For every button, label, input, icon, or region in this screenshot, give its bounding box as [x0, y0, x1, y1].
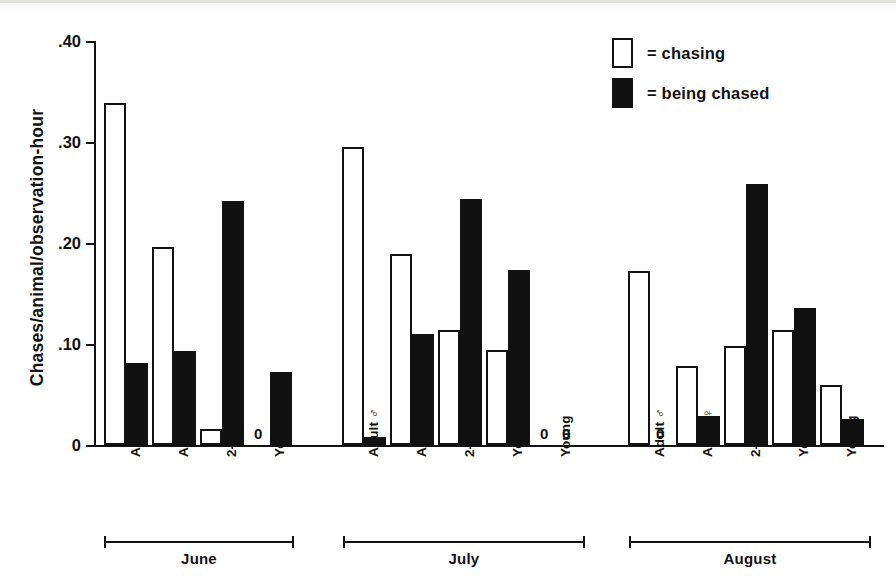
- bracket-cap-right: [583, 536, 585, 548]
- month-bracket: August: [629, 536, 871, 548]
- bar-chasing: [342, 147, 364, 445]
- bracket-line: [629, 541, 871, 543]
- legend-swatch-being-chased: [612, 78, 633, 108]
- bar-chasing: [438, 330, 460, 445]
- bar-chasing: [200, 429, 222, 445]
- x-axis-category-label: Yearling: [796, 404, 811, 457]
- bar-chasing: [104, 103, 126, 445]
- bar-chasing: [820, 385, 842, 445]
- legend-swatch-chasing: [612, 38, 633, 68]
- legend-item-chasing: = chasing: [612, 36, 769, 70]
- bar-chasing: [390, 254, 412, 445]
- bar-chasing: [152, 247, 174, 445]
- month-bracket: June: [104, 536, 294, 548]
- zero-value-label: 0: [254, 426, 262, 441]
- x-axis-category-label: Adult ♀: [700, 408, 715, 457]
- bracket-cap-right: [869, 536, 871, 548]
- bracket-cap-right: [292, 536, 294, 548]
- x-axis-category-label: 2-year-old: [748, 391, 763, 457]
- legend-item-being-chased: = being chased: [612, 76, 769, 110]
- x-axis-category-label: Adult ♀: [414, 408, 429, 457]
- month-label: August: [629, 550, 871, 567]
- legend: = chasing = being chased: [612, 36, 769, 116]
- x-axis-category-label: Adult ♂: [128, 408, 143, 457]
- month-label: June: [104, 550, 294, 567]
- bar-chasing: [724, 346, 746, 445]
- chart-figure: Chases/animal/observation-hour 0.10.20.3…: [0, 0, 896, 587]
- x-axis-category-label: Young: [844, 416, 859, 458]
- x-axis-category-label: Yearling: [272, 404, 287, 457]
- x-axis-category-label: Adult ♂: [366, 408, 381, 457]
- x-axis-category-label: Adult ♀: [176, 408, 191, 457]
- legend-label-chasing: = chasing: [647, 44, 725, 63]
- x-axis-category-label: Young: [558, 416, 573, 458]
- bar-chasing: [628, 271, 650, 445]
- bar-chasing: [676, 366, 698, 445]
- bracket-line: [343, 541, 585, 543]
- zero-value-label: 0: [540, 426, 548, 441]
- month-bracket: July: [343, 536, 585, 548]
- legend-label-being-chased: = being chased: [647, 84, 769, 103]
- month-label: July: [343, 550, 585, 567]
- bar-chasing: [486, 350, 508, 445]
- bracket-line: [104, 541, 294, 543]
- x-axis-category-label: 2-year-old: [462, 391, 477, 457]
- bar-chasing: [772, 330, 794, 445]
- x-axis-category-label: Adult ♂: [652, 408, 667, 457]
- x-axis-category-label: Yearling: [510, 404, 525, 457]
- x-axis-category-label: 2-year-old: [224, 391, 239, 457]
